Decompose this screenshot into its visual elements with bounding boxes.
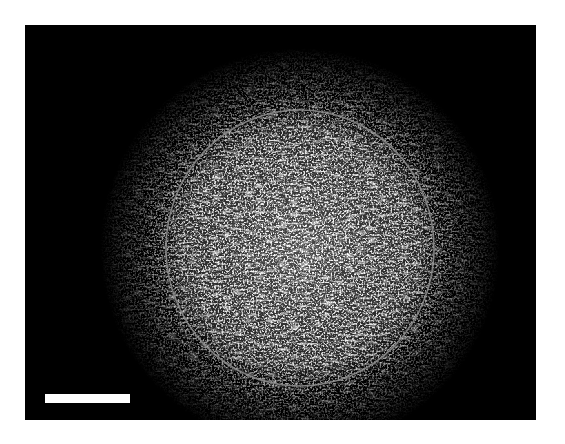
scale-bar [45,394,130,403]
micrograph-image [25,25,536,420]
cell-fluorescence-render [25,25,536,420]
figure [0,0,565,444]
